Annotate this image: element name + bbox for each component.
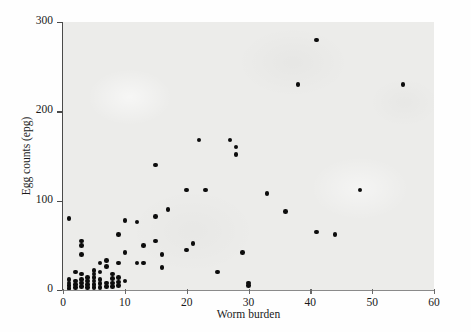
data-point xyxy=(123,279,128,284)
x-axis-title: Worm burden xyxy=(63,308,434,320)
x-tick-mark xyxy=(187,289,188,294)
data-point xyxy=(141,243,146,248)
data-point xyxy=(197,138,202,143)
y-tick-mark xyxy=(57,201,62,202)
y-axis-title: Egg counts (epg) xyxy=(20,22,34,290)
data-point xyxy=(401,82,406,87)
y-tick-label: 0 xyxy=(47,282,53,294)
scatter-plot-figure: 0100200300 0102030405060 Worm burden Egg… xyxy=(0,0,471,332)
y-axis-line xyxy=(62,22,63,291)
data-point xyxy=(160,265,165,270)
data-point xyxy=(73,270,78,275)
data-point xyxy=(333,232,338,237)
data-point xyxy=(67,216,72,221)
data-point xyxy=(234,152,239,157)
data-point xyxy=(135,261,140,266)
data-point xyxy=(153,214,158,219)
data-point xyxy=(79,243,84,248)
data-point xyxy=(234,145,239,150)
data-point xyxy=(98,270,103,275)
x-tick-mark xyxy=(249,289,250,294)
data-point xyxy=(314,230,319,235)
y-tick-mark xyxy=(57,290,62,291)
data-point xyxy=(110,276,115,281)
data-point xyxy=(191,241,196,246)
data-point xyxy=(116,283,121,288)
y-tick-label: 200 xyxy=(36,103,53,115)
data-point xyxy=(79,272,84,277)
data-point xyxy=(116,261,121,266)
y-tick-mark xyxy=(57,22,62,23)
x-tick-label: 50 xyxy=(366,296,378,308)
data-point xyxy=(184,248,189,253)
data-point xyxy=(153,239,158,244)
data-point xyxy=(283,209,288,214)
data-point xyxy=(203,188,208,193)
x-tick-mark xyxy=(372,289,373,294)
data-point xyxy=(104,264,109,269)
x-tick-mark xyxy=(434,289,435,294)
data-point xyxy=(104,284,109,289)
x-tick-label: 20 xyxy=(181,296,193,308)
x-tick-mark xyxy=(310,289,311,294)
data-point xyxy=(79,284,84,289)
x-tick-label: 0 xyxy=(60,296,66,308)
data-point xyxy=(166,207,171,212)
data-point xyxy=(104,258,109,263)
data-point xyxy=(123,218,128,223)
y-tick-mark xyxy=(57,111,62,112)
x-tick-label: 40 xyxy=(305,296,317,308)
data-point xyxy=(184,188,189,193)
data-point xyxy=(296,82,301,87)
x-tick-mark xyxy=(125,289,126,294)
data-point xyxy=(215,270,220,275)
plot-panel xyxy=(63,22,434,290)
data-point xyxy=(160,252,165,257)
data-point xyxy=(98,261,103,266)
x-tick-label: 10 xyxy=(119,296,131,308)
y-tick-label: 300 xyxy=(36,14,53,26)
x-tick-label: 60 xyxy=(428,296,440,308)
y-tick-label: 100 xyxy=(36,193,53,205)
data-point xyxy=(240,250,245,255)
data-point xyxy=(110,284,115,289)
data-point xyxy=(228,138,233,143)
x-tick-label: 30 xyxy=(243,296,255,308)
data-point xyxy=(265,191,270,196)
data-point xyxy=(123,250,128,255)
data-point xyxy=(79,252,84,257)
data-point xyxy=(141,261,146,266)
data-point xyxy=(314,38,319,43)
data-point xyxy=(358,188,363,193)
x-tick-mark xyxy=(63,289,64,294)
data-point xyxy=(116,232,121,237)
data-point xyxy=(246,283,251,288)
data-point xyxy=(153,163,158,168)
data-point xyxy=(135,220,140,225)
